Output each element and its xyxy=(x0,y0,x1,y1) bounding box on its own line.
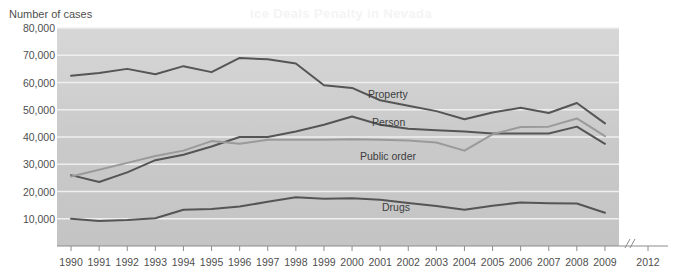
x-axis-tick-label: 2001 xyxy=(368,256,391,268)
gridlines xyxy=(57,28,619,219)
x-axis-tick-label: 2006 xyxy=(509,256,532,268)
y-axis-tick-label: 50,000 xyxy=(0,104,55,116)
x-axis-tick-label: 2012 xyxy=(636,256,659,268)
x-axis-tick-label: 2002 xyxy=(397,256,420,268)
series-label-drugs: Drugs xyxy=(382,201,410,213)
x-axis-tick-label: 2005 xyxy=(481,256,504,268)
x-axis-tick-label: 2004 xyxy=(453,256,476,268)
y-axis-tick-label: 80,000 xyxy=(0,22,55,34)
axis-break-mark xyxy=(625,239,635,248)
x-axis-tick-label: 1994 xyxy=(172,256,195,268)
y-axis-tick-label: 40,000 xyxy=(0,131,55,143)
y-axis-tick-label: 20,000 xyxy=(0,186,55,198)
x-axis-tick-label: 1997 xyxy=(256,256,279,268)
y-axis-tick-label: 60,000 xyxy=(0,77,55,89)
chart-svg xyxy=(0,0,677,280)
y-axis-tick-label: 10,000 xyxy=(0,213,55,225)
x-axis-tick-label: 1990 xyxy=(59,256,82,268)
series-label-property: Property xyxy=(368,88,408,100)
x-axis-tick-label: 2000 xyxy=(340,256,363,268)
x-axis-tick-label: 2007 xyxy=(537,256,560,268)
x-axis-tick-label: 1993 xyxy=(144,256,167,268)
x-axis-tick-label: 1995 xyxy=(200,256,223,268)
y-axis-tick-label: 70,000 xyxy=(0,49,55,61)
x-axis-tick-label: 2003 xyxy=(425,256,448,268)
series-label-person: Person xyxy=(372,116,405,128)
axis-ticks xyxy=(57,246,668,251)
y-axis-tick-label: 30,000 xyxy=(0,158,55,170)
x-axis-tick-label: 1999 xyxy=(312,256,335,268)
x-axis-tick-label: 1998 xyxy=(284,256,307,268)
chart-container: ice Deals Penalty in Nevada Number of ca… xyxy=(0,0,677,280)
x-axis-tick-label: 1991 xyxy=(87,256,110,268)
x-axis-tick-label: 1996 xyxy=(228,256,251,268)
x-axis-tick-label: 2009 xyxy=(593,256,616,268)
x-axis-tick-label: 2008 xyxy=(565,256,588,268)
x-axis-tick-label: 1992 xyxy=(116,256,139,268)
series-label-public-order: Public order xyxy=(360,150,416,162)
